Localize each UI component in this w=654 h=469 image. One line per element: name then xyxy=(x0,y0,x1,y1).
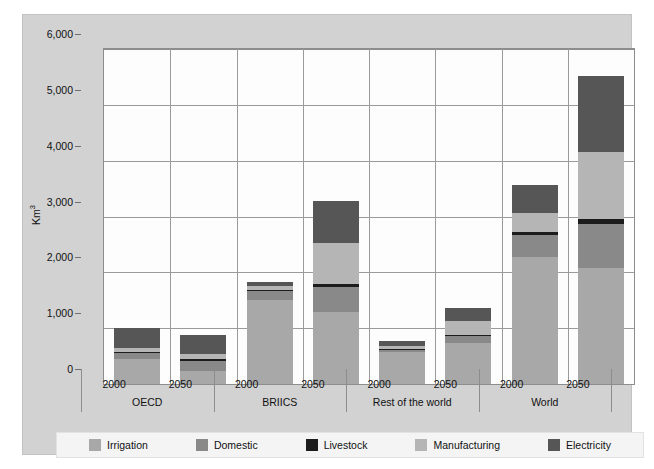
y-axis-tick-mark xyxy=(75,202,81,203)
y-axis-tick-label: 5,000 xyxy=(27,85,73,96)
bar-segment-livestock[interactable] xyxy=(114,352,160,353)
legend-item-domestic[interactable]: Domestic xyxy=(196,439,258,451)
bar-segment-electricity[interactable] xyxy=(180,335,226,355)
x-axis-group-label: Rest of the world xyxy=(342,396,482,408)
y-axis-tick-mark xyxy=(75,313,81,314)
bar-segment-electricity[interactable] xyxy=(445,308,491,321)
legend-swatch-icon xyxy=(415,439,427,451)
bar-segment-manufacturing[interactable] xyxy=(379,346,425,349)
legend-label: Irrigation xyxy=(107,439,148,451)
bar-segment-domestic[interactable] xyxy=(445,336,491,343)
y-axis-tick-label: 3,000 xyxy=(27,197,73,208)
x-axis-year-label: 2050 xyxy=(548,378,608,390)
bar-segment-electricity[interactable] xyxy=(313,201,359,243)
bar-segment-electricity[interactable] xyxy=(247,282,293,286)
y-axis-tick-label: 2,000 xyxy=(27,252,73,263)
bar-stack[interactable] xyxy=(313,201,359,384)
bar-segment-livestock[interactable] xyxy=(313,284,359,287)
bar-segment-livestock[interactable] xyxy=(445,335,491,336)
x-axis-group-label: OECD xyxy=(77,396,217,408)
gridline-x xyxy=(303,49,304,384)
bar-stack[interactable] xyxy=(512,185,558,384)
bar-segment-domestic[interactable] xyxy=(313,287,359,312)
x-axis-year-label: 2050 xyxy=(415,378,475,390)
x-axis-year-label: 2000 xyxy=(84,378,144,390)
bar-segment-irrigation[interactable] xyxy=(247,300,293,384)
bar-stack[interactable] xyxy=(578,76,624,384)
y-axis-tick-label: 1,000 xyxy=(27,308,73,319)
plot-area xyxy=(103,48,635,385)
y-axis-tick-label: 4,000 xyxy=(27,141,73,152)
legend-swatch-icon xyxy=(548,439,560,451)
bar-segment-electricity[interactable] xyxy=(578,76,624,151)
bar-segment-manufacturing[interactable] xyxy=(114,348,160,352)
x-axis-year-label: 2000 xyxy=(482,378,542,390)
bar-stack[interactable] xyxy=(180,335,226,384)
gridline-x xyxy=(435,49,436,384)
bar-segment-manufacturing[interactable] xyxy=(313,243,359,284)
bar-segment-livestock[interactable] xyxy=(578,219,624,224)
bar-stack[interactable] xyxy=(114,328,160,384)
y-axis-title-text: Km xyxy=(30,209,42,225)
group-separator xyxy=(214,369,215,412)
gridline-x xyxy=(502,49,503,384)
y-axis-tick-mark xyxy=(75,146,81,147)
legend-label: Electricity xyxy=(566,439,611,451)
bar-segment-domestic[interactable] xyxy=(379,349,425,352)
legend-swatch-icon xyxy=(89,439,101,451)
legend-label: Manufacturing xyxy=(433,439,500,451)
bar-segment-manufacturing[interactable] xyxy=(512,213,558,231)
legend-item-manufacturing[interactable]: Manufacturing xyxy=(415,439,500,451)
legend-item-irrigation[interactable]: Irrigation xyxy=(89,439,148,451)
gridline-x xyxy=(568,49,569,384)
bar-segment-irrigation[interactable] xyxy=(578,268,624,384)
group-separator xyxy=(81,369,82,412)
bar-segment-livestock[interactable] xyxy=(512,232,558,235)
y-axis-tick-label: 0 xyxy=(27,364,73,375)
bar-segment-domestic[interactable] xyxy=(247,291,293,300)
bar-segment-livestock[interactable] xyxy=(180,359,226,360)
x-axis-group-label: BRIICS xyxy=(210,396,350,408)
bar-segment-manufacturing[interactable] xyxy=(247,286,293,289)
legend-item-livestock[interactable]: Livestock xyxy=(306,439,368,451)
bar-segment-electricity[interactable] xyxy=(379,341,425,346)
bar-segment-electricity[interactable] xyxy=(114,328,160,348)
legend-swatch-icon xyxy=(306,439,318,451)
bar-segment-domestic[interactable] xyxy=(180,361,226,372)
gridline-x xyxy=(170,49,171,384)
bar-segment-domestic[interactable] xyxy=(512,235,558,257)
bar-stack[interactable] xyxy=(445,308,491,384)
x-axis-year-label: 2000 xyxy=(217,378,277,390)
x-axis-year-label: 2050 xyxy=(283,378,343,390)
chart-legend: IrrigationDomesticLivestockManufacturing… xyxy=(56,432,644,458)
legend-swatch-icon xyxy=(196,439,208,451)
gridline-x xyxy=(369,49,370,384)
chart-figure: Km3 6,0005,0004,0003,0002,0001,0000 2000… xyxy=(0,0,654,469)
bar-segment-livestock[interactable] xyxy=(379,349,425,350)
bar-stack[interactable] xyxy=(247,282,293,384)
chart-panel: Km3 6,0005,0004,0003,0002,0001,0000 2000… xyxy=(22,14,632,455)
group-separator xyxy=(346,369,347,412)
bar-segment-manufacturing[interactable] xyxy=(445,321,491,335)
group-separator xyxy=(479,369,480,412)
y-axis-tick-mark xyxy=(75,34,81,35)
legend-label: Domestic xyxy=(214,439,258,451)
bar-segment-electricity[interactable] xyxy=(512,185,558,213)
legend-item-electricity[interactable]: Electricity xyxy=(548,439,611,451)
group-separator xyxy=(611,369,612,412)
y-axis-title: Km3 xyxy=(28,205,42,225)
y-axis-tick-label: 6,000 xyxy=(27,29,73,40)
bar-segment-domestic[interactable] xyxy=(578,224,624,269)
x-axis-year-label: 2050 xyxy=(150,378,210,390)
legend-label: Livestock xyxy=(324,439,368,451)
bar-segment-irrigation[interactable] xyxy=(512,257,558,384)
bar-segment-livestock[interactable] xyxy=(247,290,293,292)
y-axis-tick-mark xyxy=(75,90,81,91)
y-axis-tick-mark xyxy=(75,257,81,258)
bar-segment-domestic[interactable] xyxy=(114,353,160,360)
x-axis-group-label: World xyxy=(475,396,615,408)
bar-segment-irrigation[interactable] xyxy=(313,312,359,384)
x-axis-year-label: 2000 xyxy=(349,378,409,390)
bar-segment-manufacturing[interactable] xyxy=(578,152,624,219)
bar-segment-manufacturing[interactable] xyxy=(180,354,226,359)
